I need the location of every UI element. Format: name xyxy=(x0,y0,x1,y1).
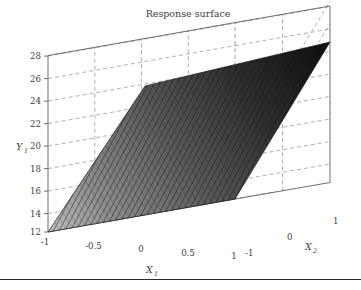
figure-bottom-rule xyxy=(0,279,361,280)
response-surface-chart: 12 14 16 18 20 22 24 26 28 -1 -0.5 0 0.5… xyxy=(0,0,361,290)
x2-axis-label-subscript: 2 xyxy=(312,247,317,255)
z-tick-28: 28 xyxy=(30,51,41,61)
x1-axis-label: X 1 xyxy=(145,264,158,278)
z-tick-labels: 12 14 16 18 20 22 24 26 28 xyxy=(30,51,41,237)
x2-tick-1: 1 xyxy=(333,216,338,226)
z-tick-16: 16 xyxy=(30,186,41,196)
chart-title: Response surface xyxy=(146,8,231,19)
z-axis-ticks xyxy=(44,56,48,232)
z-tick-26: 26 xyxy=(30,74,41,84)
x1-axis-label-subscript: 1 xyxy=(154,270,158,278)
z-axis-label-letter: Y xyxy=(16,141,24,152)
x1-tick-neg1: -1 xyxy=(41,237,49,247)
x1-tick-neg05: -0.5 xyxy=(85,241,102,251)
z-axis-label-subscript: 1 xyxy=(24,147,28,155)
x2-axis xyxy=(235,183,330,200)
x1-tick-05: 0.5 xyxy=(181,248,195,258)
z-tick-12: 12 xyxy=(30,227,41,237)
x1-axis-label-letter: X xyxy=(145,264,154,275)
x2-axis-label: X 2 xyxy=(304,241,317,255)
z-axis-label: Y 1 xyxy=(16,141,28,155)
x2-axis-label-letter: X xyxy=(304,241,313,252)
z-tick-24: 24 xyxy=(30,96,41,106)
response-surface xyxy=(40,30,340,245)
x1-tick-labels: -1 -0.5 0 0.5 1 xyxy=(41,237,237,261)
x1-tick-0: 0 xyxy=(138,244,143,254)
z-tick-22: 22 xyxy=(30,119,41,129)
x2-tick-0: 0 xyxy=(287,232,292,242)
z-tick-14: 14 xyxy=(30,209,41,219)
x1-tick-1: 1 xyxy=(231,251,236,261)
figure-panel: 12 14 16 18 20 22 24 26 28 -1 -0.5 0 0.5… xyxy=(0,0,361,290)
x2-tick-neg1: -1 xyxy=(245,248,253,258)
x2-tick-labels: -1 0 1 xyxy=(245,216,338,258)
z-tick-18: 18 xyxy=(30,164,41,174)
z-tick-20: 20 xyxy=(30,141,41,151)
